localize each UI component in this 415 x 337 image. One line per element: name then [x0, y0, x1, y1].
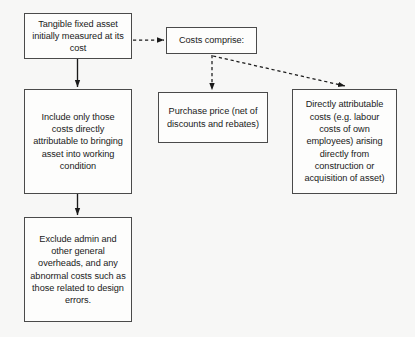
- node-exclude-admin-overheads: Exclude admin and other general overhead…: [24, 217, 132, 322]
- node-purchase-price: Purchase price (net of discounts and reb…: [158, 92, 268, 143]
- node-directly-attributable-costs: Directly attributable costs (e.g. labour…: [292, 89, 397, 194]
- node-directly-attributable-costs-label: Directly attributable costs (e.g. labour…: [298, 98, 391, 184]
- node-exclude-admin-overheads-label: Exclude admin and other general overhead…: [30, 233, 126, 307]
- node-costs-comprise: Costs comprise:: [166, 27, 257, 54]
- node-include-directly-attributable-costs-label: Include only those costs directly attrib…: [30, 111, 126, 172]
- node-costs-comprise-label: Costs comprise:: [172, 34, 251, 46]
- node-tangible-fixed-asset-label: Tangible fixed asset initially measured …: [30, 18, 126, 55]
- node-purchase-price-label: Purchase price (net of discounts and reb…: [164, 105, 262, 130]
- node-include-directly-attributable-costs: Include only those costs directly attrib…: [24, 89, 132, 194]
- edge-costs-to-directly: [213, 56, 345, 86]
- flowchart-diagram: Tangible fixed asset initially measured …: [0, 0, 415, 337]
- node-tangible-fixed-asset: Tangible fixed asset initially measured …: [24, 13, 132, 59]
